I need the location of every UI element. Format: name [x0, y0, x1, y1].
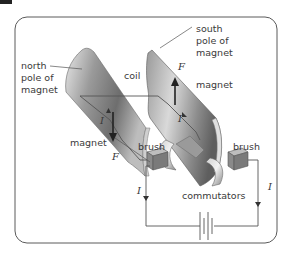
- label-north-line3: magnet: [21, 84, 58, 95]
- label-south-line3: magnet: [196, 47, 233, 58]
- label-magnet-right: magnet: [196, 79, 233, 90]
- label-brush-left: brush: [138, 141, 165, 152]
- label-north-line2: pole of: [21, 72, 54, 83]
- symbol-force-right: F: [177, 61, 186, 72]
- label-south-line2: pole of: [196, 35, 229, 46]
- dc-motor-diagram: north pole of magnet south pole of magne…: [0, 0, 292, 254]
- label-coil: coil: [124, 70, 140, 81]
- cropped-heading-fragment: [0, 0, 12, 4]
- label-commutators: commutators: [182, 190, 246, 201]
- label-south-line1: south: [196, 23, 223, 34]
- label-magnet-left: magnet: [70, 137, 107, 148]
- label-brush-right: brush: [233, 141, 260, 152]
- label-north-line1: north: [21, 60, 47, 71]
- symbol-force-left: F: [111, 151, 120, 162]
